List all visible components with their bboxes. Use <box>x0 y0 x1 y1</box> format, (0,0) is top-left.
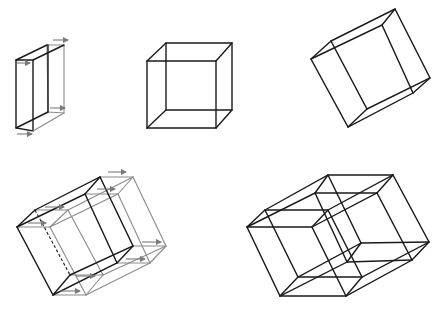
panel-slab-translation <box>16 40 68 134</box>
motion-arrows <box>17 40 68 134</box>
hypercube-construction-diagram <box>0 0 441 310</box>
panel-tesseract <box>247 175 429 296</box>
panel-cube-rotated <box>311 9 430 127</box>
panel-cube-translation <box>17 172 166 295</box>
trace-edges <box>17 177 166 295</box>
motion-arrows <box>28 172 161 291</box>
panel-cube-front <box>147 43 232 128</box>
